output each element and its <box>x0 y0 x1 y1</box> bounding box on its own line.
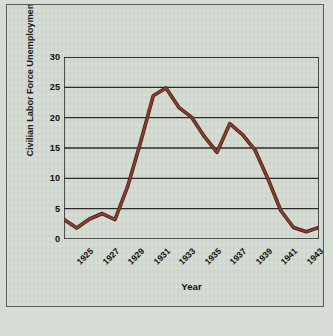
y-axis-title: Civilian Labor Force Unemployment (perce… <box>25 4 35 158</box>
x-axis-title: Year <box>64 281 319 292</box>
y-tick-label: 0 <box>40 234 60 244</box>
x-tick-label: 1943 <box>304 246 324 267</box>
x-tick-label: 1937 <box>228 246 249 267</box>
y-tick-label: 5 <box>40 204 60 214</box>
chart-svg <box>64 57 319 239</box>
y-tick-label: 10 <box>40 173 60 183</box>
x-tick-label: 1929 <box>126 246 147 267</box>
gridlines <box>64 57 319 209</box>
x-tick-labels: 1925192719291931193319351937193919411943… <box>64 239 319 279</box>
chart-figure: Civilian Labor Force Unemployment (perce… <box>6 4 324 307</box>
y-tick-label: 20 <box>40 113 60 123</box>
series-line-unemployment <box>64 88 319 232</box>
x-tick-label: 1927 <box>100 246 121 267</box>
plot-area: 051015202530 <box>64 57 319 239</box>
x-tick-label: 1925 <box>75 246 96 267</box>
x-tick-label: 1941 <box>279 246 300 267</box>
x-tick-label: 1939 <box>253 246 274 267</box>
x-tick-label: 1933 <box>177 246 198 267</box>
x-tick-label: 1935 <box>202 246 223 267</box>
y-tick-label: 25 <box>40 82 60 92</box>
y-tick-label: 15 <box>40 143 60 153</box>
y-tick-label: 30 <box>40 52 60 62</box>
x-tick-label: 1931 <box>151 246 172 267</box>
